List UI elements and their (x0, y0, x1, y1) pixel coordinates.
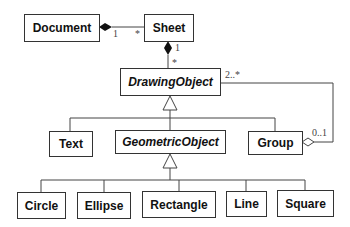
generalization-triangle-icon (163, 96, 177, 110)
composition-diamond-icon (164, 41, 172, 55)
class-group[interactable]: Group (248, 131, 303, 155)
multiplicity-label: * (135, 28, 140, 39)
class-geometricobject[interactable]: GeometricObject (115, 130, 226, 154)
multiplicity-label: 2..* (225, 69, 240, 80)
class-circle[interactable]: Circle (17, 192, 66, 219)
class-line[interactable]: Line (226, 191, 267, 217)
multiplicity-label: 1 (175, 42, 180, 53)
class-ellipse[interactable]: Ellipse (77, 192, 131, 219)
generalization-triangle-icon (163, 154, 177, 168)
composition-diamond-icon (99, 23, 112, 31)
class-drawingobject[interactable]: DrawingObject (120, 68, 221, 96)
class-sheet[interactable]: Sheet (144, 14, 194, 42)
class-square[interactable]: Square (277, 190, 334, 217)
class-document[interactable]: Document (24, 14, 100, 42)
multiplicity-label: 1 (113, 28, 118, 39)
multiplicity-label: 0..1 (312, 127, 327, 138)
multiplicity-label: * (172, 57, 177, 68)
class-rectangle[interactable]: Rectangle (142, 191, 216, 218)
class-text[interactable]: Text (49, 131, 93, 157)
aggregation-diamond-icon (302, 138, 314, 146)
